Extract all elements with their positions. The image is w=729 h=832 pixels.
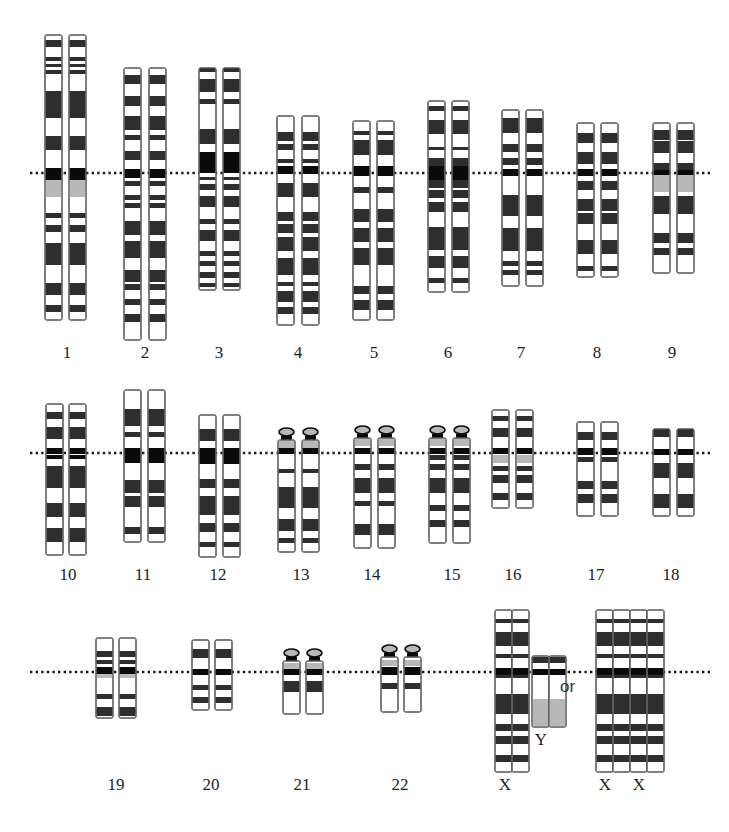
chromatid-18-1: [653, 429, 670, 516]
centromere-band: [533, 669, 549, 675]
chromatid-21-1: [283, 649, 300, 714]
label-chromosome-15: 15: [444, 565, 461, 584]
dark-band: [429, 278, 445, 283]
dark-band: [631, 632, 647, 646]
chromatid-2-2: [149, 68, 166, 340]
dark-band: [429, 190, 445, 198]
satellite-icon: [307, 649, 322, 657]
karyotype-diagram: 12345678910111213141516171819202122XYXX …: [0, 0, 729, 832]
chromatid-12-2: [223, 415, 240, 557]
label-chromosome-10: 10: [60, 565, 77, 584]
label-chromosome-9: 9: [668, 343, 677, 362]
dark-band: [578, 133, 594, 143]
chromatid-20-1: [192, 640, 209, 710]
dark-band: [503, 261, 519, 266]
dark-band: [578, 240, 594, 254]
centromere-band: [125, 169, 141, 178]
dark-band: [429, 227, 445, 250]
dark-band: [125, 151, 141, 160]
dark-band: [678, 130, 694, 140]
dark-band: [200, 230, 216, 241]
satellite-icon: [382, 645, 397, 653]
dark-band: [496, 694, 512, 714]
dark-band: [278, 183, 294, 197]
chromatid-5-2: [377, 121, 394, 320]
dark-band: [149, 409, 165, 426]
dark-band: [224, 184, 240, 190]
heterochromatin-band: [382, 660, 398, 666]
dark-band: [70, 91, 86, 118]
dark-band: [429, 202, 445, 212]
heterochromatin-band: [279, 441, 295, 448]
centromere-band: [224, 454, 240, 464]
dark-band: [493, 428, 509, 437]
label-chromosome-18: 18: [663, 565, 680, 584]
dark-band: [125, 409, 141, 426]
dark-band: [149, 527, 165, 534]
centromere-band: [602, 448, 618, 455]
dark-band: [224, 99, 240, 104]
dark-band: [125, 270, 141, 282]
chromatid-10-1: [46, 404, 63, 555]
dark-band: [597, 675, 613, 678]
label-chromosome-13: 13: [293, 565, 310, 584]
dark-band: [355, 524, 371, 535]
dark-band: [503, 195, 519, 216]
dark-band: [224, 251, 240, 256]
dark-band: [46, 40, 62, 47]
dark-band: [517, 428, 533, 437]
dark-band: [578, 494, 594, 503]
chromatid-12-1: [199, 415, 216, 557]
dark-band: [224, 177, 240, 180]
dark-band: [429, 106, 445, 111]
dark-band: [46, 91, 62, 118]
dark-band: [303, 538, 319, 543]
dark-band: [278, 224, 294, 233]
dark-band: [150, 299, 166, 305]
dark-band: [200, 479, 216, 488]
or-label: or: [560, 677, 575, 696]
dark-band: [496, 654, 512, 658]
dark-band: [517, 475, 533, 483]
dark-band: [678, 141, 694, 153]
centromere-band: [120, 667, 136, 674]
dark-band: [303, 159, 319, 163]
dark-band: [125, 284, 141, 290]
chromatid-2-1: [124, 68, 141, 340]
heterochromatin-band: [379, 439, 395, 446]
dark-band: [149, 432, 165, 437]
dark-band: [513, 675, 529, 678]
dark-band: [224, 261, 240, 266]
dark-band: [46, 70, 62, 74]
chromosome-17: [577, 422, 618, 516]
chromatid-9-1: [653, 123, 670, 273]
dark-band: [597, 736, 613, 744]
dark-band: [503, 144, 519, 152]
dark-band: [46, 213, 62, 218]
chromatid-4-2: [302, 116, 319, 325]
label-chromosome-5: 5: [370, 343, 379, 362]
dark-band: [503, 228, 519, 251]
chromatid-7-1: [502, 110, 519, 286]
dark-band: [602, 133, 618, 143]
dark-band: [648, 619, 664, 623]
dark-band: [597, 694, 613, 714]
dark-band: [527, 118, 543, 133]
dark-band: [648, 755, 664, 762]
dark-band: [513, 632, 529, 646]
centromere-band: [200, 152, 216, 168]
dark-band: [354, 131, 370, 135]
chromatid-X2-2: [613, 610, 630, 772]
centromere-band: [648, 668, 664, 675]
dark-band: [70, 40, 86, 47]
chromatid-20-2: [215, 640, 232, 710]
dark-band: [631, 724, 647, 731]
dark-band: [453, 202, 469, 212]
label-chromosome-4: 4: [294, 343, 303, 362]
chromatid-Y-1: [532, 656, 549, 727]
chromosome-18: [653, 429, 694, 516]
dark-band: [578, 152, 594, 164]
dark-band: [614, 654, 630, 658]
dark-band: [200, 496, 216, 515]
chromosome-7: [502, 110, 543, 286]
